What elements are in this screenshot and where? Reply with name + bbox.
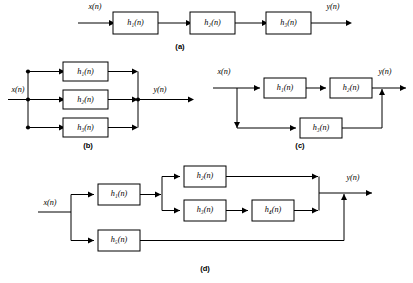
label-d-output: y(n) [345, 173, 359, 182]
label-b-output: y(n) [152, 85, 166, 94]
arrowhead-c-h1 [254, 85, 260, 91]
figure-block-diagrams: h₁(n) h₂(n) h₃(n) x(n) y(n) (a) [0, 0, 413, 283]
label-c-input: x(n) [216, 67, 230, 76]
caption-d: (d) [200, 264, 210, 273]
arrowhead-d-sum-bottom [312, 208, 318, 214]
arrowhead-c-output [400, 85, 406, 91]
label-d-input: x(n) [42, 198, 56, 207]
arrowhead-d-h5 [88, 238, 94, 244]
arrowhead-b-sum-bottom [132, 125, 138, 131]
block-diagram-canvas: h₁(n) h₂(n) h₃(n) x(n) y(n) (a) [0, 0, 413, 283]
block-b-h1-label: h₁(n) [77, 67, 94, 76]
label-b-input: x(n) [10, 85, 24, 94]
block-d-h5-label: h₅(n) [111, 235, 128, 244]
arrowhead-d-output [366, 190, 372, 196]
subfigure-a: h₁(n) h₂(n) h₃(n) x(n) y(n) (a) [78, 2, 352, 51]
block-a-h2-label: h₂(n) [204, 18, 221, 27]
block-d-h1-label: h₁(n) [111, 189, 128, 198]
caption-c: (c) [295, 141, 305, 150]
label-c-output: y(n) [377, 67, 391, 76]
arrowhead-d-h2 [174, 174, 180, 180]
arrowhead-c-h3 [290, 125, 296, 131]
arrowhead-d-inner-split [155, 192, 161, 198]
arrowhead-b-output [188, 97, 194, 103]
arrowhead-d-h4 [242, 208, 248, 214]
subfigure-d: h₁(n) h₂(n) h₃(n) h₄(n) [38, 166, 372, 273]
block-a-h1-label: h₁(n) [127, 18, 144, 27]
block-c-h1-label: h₁(n) [277, 83, 294, 92]
arrowhead-c-down [234, 122, 240, 128]
arrowhead-d-sum-top [312, 174, 318, 180]
block-d-h2-label: h₂(n) [197, 171, 214, 180]
arrowhead-d-h1 [88, 192, 94, 198]
block-d-h3-label: h₃(n) [197, 205, 214, 214]
subfigure-b: h₁(n) h₂(n) h₃(n) x(n) y(n) (b) [8, 62, 194, 150]
block-c-h2-label: h₂(n) [343, 83, 360, 92]
subfigure-c: h₁(n) h₂(n) h₃(n) x(n) y(n) (c) [213, 67, 406, 150]
block-d-h4-label: h₄(n) [265, 205, 282, 214]
block-a-h3-label: h₃(n) [280, 18, 297, 27]
block-b-h2-label: h₂(n) [77, 95, 94, 104]
label-a-output: y(n) [325, 2, 339, 11]
arrowhead-c-h2 [320, 85, 326, 91]
caption-b: (b) [83, 141, 93, 150]
caption-a: (a) [175, 42, 185, 51]
arrowhead-d-h3 [174, 208, 180, 214]
arrowhead-a-output [346, 20, 352, 26]
arrowhead-c-sum [379, 89, 385, 95]
arrowhead-d-sum-final [341, 194, 347, 200]
block-b-h3-label: h₃(n) [77, 123, 94, 132]
arrowhead-b-sum-top [132, 69, 138, 75]
block-c-h3-label: h₃(n) [313, 123, 330, 132]
label-a-input: x(n) [87, 2, 101, 11]
